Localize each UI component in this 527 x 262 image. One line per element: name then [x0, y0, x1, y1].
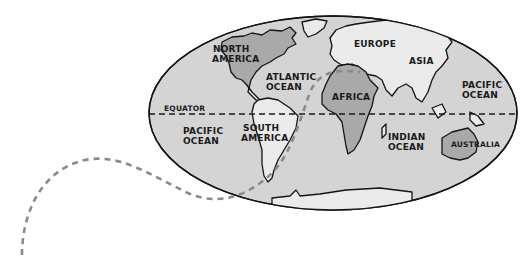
label-indian-ocean-line2: OCEAN	[388, 142, 424, 152]
label-south-america: SOUTH	[243, 123, 279, 133]
label-pacific-ocean-west-line2: OCEAN	[183, 136, 219, 146]
label-atlantic-ocean: ATLANTIC	[266, 72, 317, 82]
label-north-america: NORTH	[213, 44, 249, 54]
world-map: NORTH AMERICA ATLANTIC OCEAN EUROPE ASIA…	[0, 0, 527, 262]
label-pacific-ocean-east: PACIFIC	[462, 80, 502, 90]
label-australia: AUSTRALIA	[451, 140, 500, 149]
label-indian-ocean: INDIAN	[388, 132, 425, 142]
label-south-america-line2: AMERICA	[241, 133, 288, 143]
label-north-america-line2: AMERICA	[212, 54, 259, 64]
label-pacific-ocean-east-line2: OCEAN	[462, 90, 498, 100]
label-asia: ASIA	[409, 56, 434, 66]
label-equator: EQUATOR	[164, 104, 205, 113]
label-atlantic-ocean-line2: OCEAN	[266, 82, 302, 92]
label-europe: EUROPE	[354, 39, 396, 49]
label-africa: AFRICA	[332, 92, 370, 102]
label-pacific-ocean-west: PACIFIC	[183, 126, 223, 136]
